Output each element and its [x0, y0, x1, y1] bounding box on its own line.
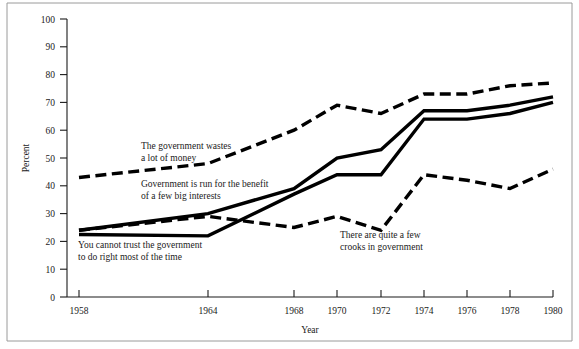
y-tick-label-70: 70	[46, 98, 56, 108]
annotation-wastes-line2: a lot of money	[141, 153, 196, 163]
x-tick-label-1964: 1964	[199, 306, 218, 316]
x-tick-label-1976: 1976	[458, 306, 477, 316]
y-tick-label-100: 100	[41, 15, 56, 25]
annotation-interests-line2: of a few big interests	[141, 191, 221, 201]
y-axis-title: Percent	[21, 143, 31, 172]
line-chart-svg: 100 90 80 70 60 50 40 30 20 10 0 Percent	[0, 0, 579, 349]
x-tick-label-1972: 1972	[372, 306, 391, 316]
x-axis: 1958 1964 1968 1970 1972 1974 1976 1978 …	[67, 290, 563, 335]
x-tick-label-1970: 1970	[328, 306, 347, 316]
annotation-trust-line2: to do right most of the time	[78, 252, 182, 262]
annotation-wastes-line1: The government wastes	[141, 141, 232, 151]
page-frame	[7, 3, 572, 341]
x-axis-title: Year	[301, 325, 319, 335]
y-tick-label-90: 90	[46, 42, 56, 52]
annotation-crooks-line2: crooks in government	[340, 242, 423, 252]
y-tick-label-60: 60	[46, 126, 56, 136]
x-tick-label-1978: 1978	[501, 306, 520, 316]
annotation-crooks-line1: There are quite a few	[340, 230, 421, 240]
annotation-trust-line1: You cannot trust the government	[78, 240, 202, 250]
y-tick-label-0: 0	[50, 293, 55, 303]
y-tick-label-20: 20	[46, 237, 56, 247]
x-tick-label-1958: 1958	[70, 306, 89, 316]
y-tick-label-80: 80	[46, 70, 56, 80]
y-axis: 100 90 80 70 60 50 40 30 20 10 0 Percent	[21, 15, 67, 303]
x-tick-label-1974: 1974	[415, 306, 434, 316]
chart-figure: 100 90 80 70 60 50 40 30 20 10 0 Percent	[0, 0, 579, 349]
x-tick-label-1980: 1980	[544, 306, 563, 316]
annotation-crooks: There are quite a few crooks in governme…	[340, 230, 423, 252]
series-line-government-wastes	[79, 83, 553, 178]
y-tick-label-40: 40	[46, 181, 56, 191]
annotation-interests-line1: Government is run for the benefit	[141, 179, 269, 189]
annotation-big-interests: Government is run for the benefit of a f…	[141, 179, 269, 201]
y-tick-label-50: 50	[46, 154, 56, 164]
annotation-cannot-trust: You cannot trust the government to do ri…	[78, 240, 202, 262]
y-tick-label-10: 10	[46, 265, 56, 275]
y-tick-label-30: 30	[46, 209, 56, 219]
x-tick-label-1968: 1968	[285, 306, 304, 316]
